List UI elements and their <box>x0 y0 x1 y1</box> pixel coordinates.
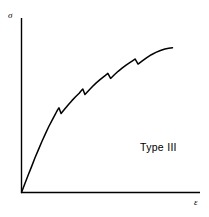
x-axis-label: ε <box>194 198 198 207</box>
stress-strain-curve <box>22 48 173 193</box>
y-axis-label: σ <box>8 11 12 20</box>
chart-canvas <box>0 0 209 217</box>
stress-strain-figure: σ ε Type III <box>0 0 209 217</box>
curve-type-label: Type III <box>140 141 177 153</box>
